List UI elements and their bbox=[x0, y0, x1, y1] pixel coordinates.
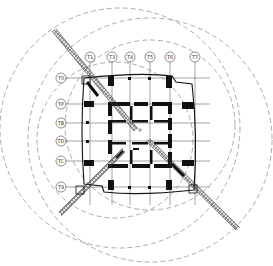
svg-text:T7: T7 bbox=[191, 54, 198, 60]
center-mark bbox=[138, 128, 142, 132]
axis-label-left-2: TB bbox=[56, 118, 66, 128]
axis-label-left-0: T0 bbox=[56, 73, 66, 83]
svg-text:T6: T6 bbox=[166, 54, 173, 60]
crane-southwest bbox=[59, 148, 125, 216]
axis-label-top-2: T4 bbox=[125, 52, 135, 62]
svg-text:T0: T0 bbox=[57, 75, 64, 81]
svg-text:TD: TD bbox=[57, 138, 65, 144]
axis-label-top-3: T5 bbox=[145, 52, 155, 62]
axis-labels-left: T0 TP TB TD TC T9 bbox=[56, 73, 66, 192]
svg-text:TB: TB bbox=[57, 120, 65, 126]
svg-text:T5: T5 bbox=[146, 54, 153, 60]
axis-labels-top: T1 T3 T4 T5 T6 T7 bbox=[85, 52, 200, 62]
svg-text:T9: T9 bbox=[57, 184, 64, 190]
axis-label-top-1: T3 bbox=[107, 52, 117, 62]
axis-label-left-5: T9 bbox=[56, 182, 66, 192]
axis-label-top-5: T7 bbox=[190, 52, 200, 62]
axis-label-top-4: T6 bbox=[165, 52, 175, 62]
swing-radius-nw-large bbox=[0, 8, 240, 248]
axis-label-left-4: TC bbox=[56, 156, 66, 166]
svg-text:TP: TP bbox=[57, 101, 64, 107]
crane-layout-diagram: T1 T3 T4 T5 T6 T7 T0 TP bbox=[0, 0, 273, 266]
axis-label-left-3: TD bbox=[56, 136, 66, 146]
svg-text:T1: T1 bbox=[86, 54, 93, 60]
svg-text:T4: T4 bbox=[126, 54, 133, 60]
svg-text:TC: TC bbox=[57, 158, 65, 164]
svg-text:T3: T3 bbox=[108, 54, 115, 60]
axis-label-top-0: T1 bbox=[85, 52, 95, 62]
axis-label-left-1: TP bbox=[56, 99, 66, 109]
